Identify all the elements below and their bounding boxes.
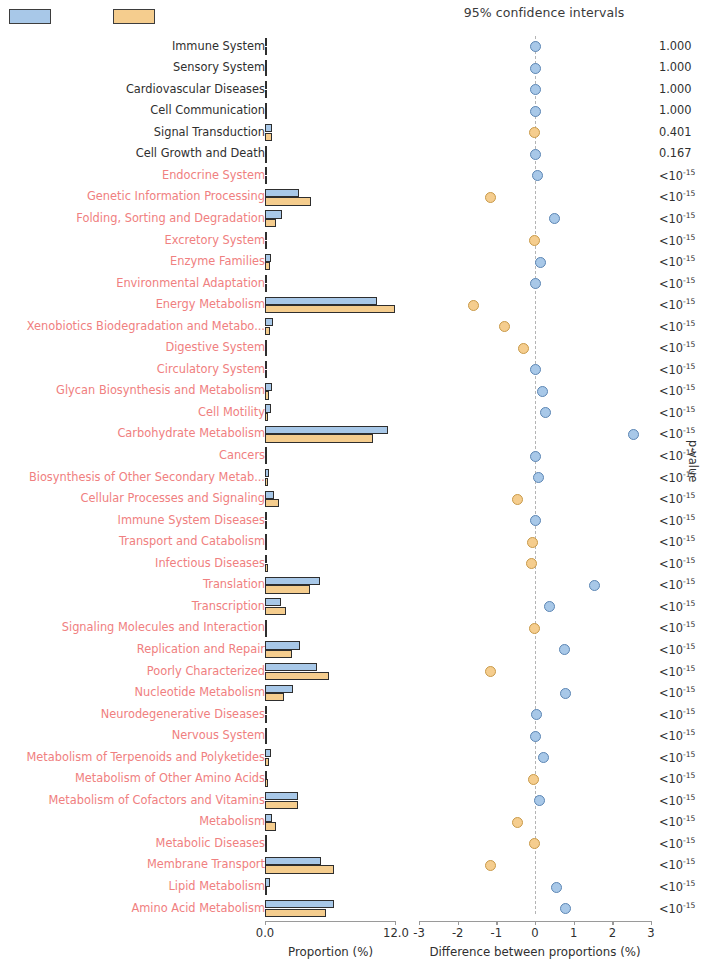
proportion-bar-group2[interactable] [265, 715, 267, 723]
proportion-bar-group1[interactable] [265, 900, 334, 908]
category-label[interactable]: Sensory System [173, 62, 265, 73]
proportion-bar-group1[interactable] [265, 641, 300, 649]
category-label[interactable]: Lipid Metabolism [168, 881, 265, 892]
ci-dot[interactable] [530, 364, 541, 375]
ci-dot[interactable] [560, 688, 571, 699]
proportion-bar-group2[interactable] [265, 111, 267, 119]
category-label[interactable]: Transcription [192, 601, 265, 612]
proportion-bar-group2[interactable] [265, 607, 286, 615]
category-label[interactable]: Carbohydrate Metabolism [117, 429, 265, 440]
proportion-bar-group2[interactable] [265, 47, 267, 55]
category-label[interactable]: Circulatory System [157, 364, 265, 375]
ci-dot[interactable] [530, 731, 541, 742]
category-label[interactable]: Poorly Characterized [147, 666, 265, 677]
proportion-bar-group1[interactable] [265, 361, 267, 369]
ci-dot[interactable] [544, 601, 555, 612]
proportion-bar-group1[interactable] [265, 814, 272, 822]
proportion-bar-group2[interactable] [265, 262, 270, 270]
proportion-bar-group1[interactable] [265, 469, 269, 477]
proportion-bar-group2[interactable] [265, 154, 267, 162]
ci-dot[interactable] [529, 127, 540, 138]
proportion-bar-group2[interactable] [265, 413, 268, 421]
ci-dot[interactable] [537, 386, 548, 397]
category-label[interactable]: Environmental Adaptation [116, 278, 265, 289]
proportion-bar-group1[interactable] [265, 835, 267, 843]
category-label[interactable]: Folding, Sorting and Degradation [76, 213, 265, 224]
proportion-bar-group2[interactable] [265, 585, 310, 593]
proportion-bar-group2[interactable] [265, 176, 267, 184]
category-label[interactable]: Membrane Transport [147, 860, 265, 871]
ci-dot[interactable] [530, 149, 541, 160]
proportion-bar-group1[interactable] [265, 728, 267, 736]
category-label[interactable]: Metabolism [199, 817, 265, 828]
ci-dot[interactable] [528, 774, 539, 785]
proportion-bar-group1[interactable] [265, 189, 299, 197]
proportion-bar-group2[interactable] [265, 327, 270, 335]
ci-dot[interactable] [529, 623, 540, 634]
proportion-bar-group2[interactable] [265, 564, 268, 572]
category-label[interactable]: Signaling Molecules and Interaction [62, 623, 265, 634]
category-label[interactable]: Signal Transduction [154, 127, 265, 138]
category-label[interactable]: Transport and Catabolism [119, 537, 265, 548]
proportion-bar-group1[interactable] [265, 210, 282, 218]
proportion-bar-group1[interactable] [265, 512, 267, 520]
category-label[interactable]: Enzyme Families [170, 256, 265, 267]
proportion-bar-group1[interactable] [265, 404, 271, 412]
ci-dot[interactable] [589, 580, 600, 591]
proportion-bar-group2[interactable] [265, 305, 395, 313]
ci-dot[interactable] [559, 644, 570, 655]
proportion-bar-group1[interactable] [265, 254, 271, 262]
category-label[interactable]: Cancers [219, 450, 265, 461]
ci-dot[interactable] [512, 817, 523, 828]
ci-dot[interactable] [468, 300, 479, 311]
proportion-bar-group1[interactable] [265, 275, 267, 283]
category-label[interactable]: Glycan Biosynthesis and Metabolism [56, 386, 265, 397]
proportion-bar-group2[interactable] [265, 779, 268, 787]
proportion-bar-group2[interactable] [265, 650, 292, 658]
ci-dot[interactable] [534, 795, 545, 806]
proportion-bar-group2[interactable] [265, 219, 276, 227]
proportion-bar-group2[interactable] [265, 844, 267, 852]
ci-dot[interactable] [628, 429, 639, 440]
proportion-bar-group2[interactable] [265, 736, 267, 744]
proportion-bar-group2[interactable] [265, 542, 267, 550]
proportion-bar-group1[interactable] [265, 447, 267, 455]
category-label[interactable]: Digestive System [165, 343, 265, 354]
proportion-bar-group2[interactable] [265, 822, 276, 830]
proportion-bar-group1[interactable] [265, 620, 267, 628]
proportion-bar-group2[interactable] [265, 693, 284, 701]
proportion-bar-group2[interactable] [265, 284, 267, 292]
proportion-bar-group2[interactable] [265, 909, 326, 917]
category-label[interactable]: Biosynthesis of Other Secondary Metab... [29, 472, 265, 483]
proportion-bar-group1[interactable] [265, 426, 388, 434]
category-label[interactable]: Immune System [172, 41, 265, 52]
proportion-bar-group1[interactable] [265, 663, 317, 671]
proportion-bar-group1[interactable] [265, 81, 267, 89]
proportion-bar-group1[interactable] [265, 878, 270, 886]
proportion-bar-group1[interactable] [265, 167, 267, 175]
proportion-bar-group1[interactable] [265, 749, 271, 757]
proportion-bar-group2[interactable] [265, 801, 298, 809]
ci-dot[interactable] [530, 106, 541, 117]
category-label[interactable]: Nucleotide Metabolism [135, 687, 265, 698]
legend-swatch-group2[interactable] [113, 9, 155, 24]
proportion-bar-group1[interactable] [265, 318, 273, 326]
ci-dot[interactable] [485, 666, 496, 677]
ci-dot[interactable] [533, 472, 544, 483]
proportion-bar-group1[interactable] [265, 383, 272, 391]
category-label[interactable]: Infectious Diseases [155, 558, 265, 569]
ci-dot[interactable] [560, 903, 571, 914]
category-label[interactable]: Amino Acid Metabolism [131, 903, 265, 914]
category-label[interactable]: Translation [203, 580, 265, 591]
proportion-bar-group1[interactable] [265, 706, 267, 714]
category-label[interactable]: Metabolism of Cofactors and Vitamins [48, 795, 265, 806]
ci-dot[interactable] [518, 343, 529, 354]
proportion-bar-group2[interactable] [265, 133, 272, 141]
category-label[interactable]: Genetic Information Processing [87, 192, 265, 203]
category-label[interactable]: Neurodegenerative Diseases [101, 709, 265, 720]
ci-dot[interactable] [535, 257, 546, 268]
proportion-bar-group1[interactable] [265, 555, 267, 563]
proportion-bar-group1[interactable] [265, 60, 267, 68]
proportion-bar-group1[interactable] [265, 146, 267, 154]
proportion-bar-group2[interactable] [265, 391, 269, 399]
